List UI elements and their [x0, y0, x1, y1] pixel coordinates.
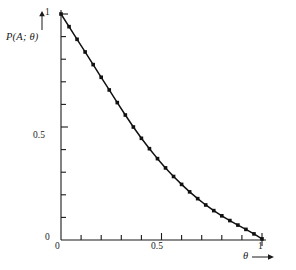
- data-point-marker: [83, 50, 87, 54]
- data-point-marker: [252, 232, 256, 236]
- data-point-marker: [115, 101, 119, 105]
- data-point-marker: [140, 137, 144, 141]
- data-point-marker: [132, 125, 136, 129]
- data-point-marker: [212, 209, 216, 213]
- data-point-marker: [228, 219, 232, 223]
- data-point-marker: [156, 157, 160, 161]
- data-point-marker: [220, 214, 224, 218]
- data-point-marker: [260, 237, 264, 241]
- data-point-marker: [107, 88, 111, 92]
- data-point-marker: [148, 147, 152, 151]
- data-point-marker: [196, 197, 200, 201]
- data-point-marker: [59, 12, 63, 16]
- data-point-marker: [188, 190, 192, 194]
- data-point-marker: [124, 113, 128, 117]
- data-point-marker: [99, 75, 103, 79]
- data-point-marker: [164, 166, 168, 170]
- data-point-marker: [91, 63, 95, 67]
- data-point-marker: [244, 228, 248, 232]
- data-point-marker: [75, 38, 79, 42]
- series-line-0: [61, 14, 262, 239]
- data-point-marker: [180, 183, 184, 187]
- data-point-marker: [172, 175, 176, 179]
- chart-figure: P(A; θ) θ 1 0.5 0 0 0.5 1: [0, 0, 296, 270]
- plot-area: [0, 0, 296, 270]
- data-point-marker: [67, 25, 71, 29]
- data-point-marker: [204, 203, 208, 207]
- data-point-marker: [236, 223, 240, 227]
